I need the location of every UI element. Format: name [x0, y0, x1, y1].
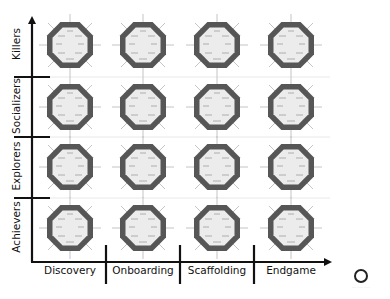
- ring-logo-icon: [355, 270, 367, 282]
- column-label-scaffolding: Scaffolding: [180, 264, 254, 276]
- row-label-socializers: Socializers: [10, 76, 22, 136]
- matrix-diagram: [0, 0, 390, 299]
- logo-caption: ···· ······ ······: [340, 286, 382, 289]
- player-journey-matrix: Discovery Onboarding Scaffolding Endgame…: [0, 0, 390, 299]
- row-label-achievers: Achievers: [10, 197, 22, 257]
- column-label-onboarding: Onboarding: [106, 264, 180, 276]
- column-label-endgame: Endgame: [254, 264, 328, 276]
- row-label-killers: Killers: [10, 14, 22, 74]
- row-label-explorers: Explorers: [10, 136, 22, 196]
- column-label-discovery: Discovery: [33, 264, 107, 276]
